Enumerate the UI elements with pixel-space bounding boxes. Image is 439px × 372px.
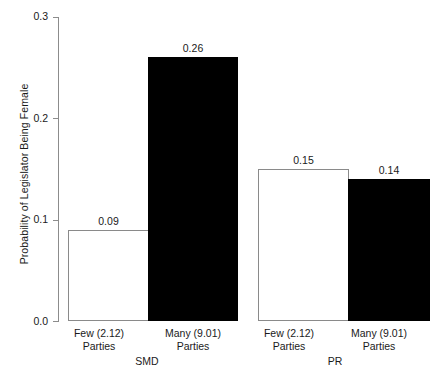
bar-pr-few[interactable] <box>258 169 349 321</box>
bar-value-smd-many: 0.26 <box>148 43 238 54</box>
y-tick-label-0.2: 0.2 <box>4 113 48 124</box>
x-category-pr-many: Many (9.01) Parties <box>318 327 439 352</box>
bar-smd-few[interactable] <box>68 230 149 321</box>
bar-value-pr-few: 0.15 <box>258 155 349 166</box>
bar-value-pr-many: 0.14 <box>348 165 430 176</box>
y-axis-title: Probability of Legislator Being Female <box>18 44 30 304</box>
x-category-pr-many-line2: Parties <box>318 340 439 353</box>
y-tick-label-0.1: 0.1 <box>4 214 48 225</box>
bar-value-smd-few: 0.09 <box>68 216 149 227</box>
plot-area: 0.09 0.26 0.15 0.14 <box>59 17 434 321</box>
x-category-pr-many-line1: Many (9.01) <box>318 327 439 340</box>
bar-smd-many[interactable] <box>148 57 238 321</box>
y-tick-mark-0.0 <box>53 321 59 322</box>
y-tick-label-0.3: 0.3 <box>4 11 48 22</box>
bar-chart: Probability of Legislator Being Female 0… <box>0 0 439 372</box>
y-tick-label-0.0: 0.0 <box>4 316 48 327</box>
x-group-label-pr: PR <box>274 355 396 367</box>
x-group-label-smd: SMD <box>86 355 208 367</box>
bar-pr-many[interactable] <box>348 179 430 321</box>
